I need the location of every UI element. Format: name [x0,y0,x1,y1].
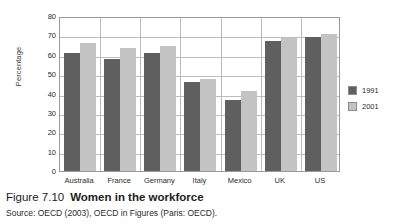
x-axis-tick-label: Mexico [228,176,252,185]
bars-layer [60,18,339,171]
bar [120,48,136,171]
x-axis-tick-labels: AustraliaFranceGermanyItalyMexicoUKUS [59,176,340,190]
legend-label: 2001 [362,103,379,111]
legend-swatch [348,102,357,111]
caption: Figure 7.10Women in the workforce [6,190,406,204]
bar [241,91,257,171]
y-axis-tick-label: 30 [48,110,56,118]
bar [160,46,176,171]
y-axis-tick-label: 20 [48,130,56,138]
bar [144,53,160,171]
y-axis-tick-labels: 01020304050607080 [36,17,56,172]
bar [225,100,241,171]
y-axis-title: Percentage [14,27,23,107]
y-axis-tick-label: 70 [48,33,56,41]
bar [305,37,321,171]
bar-group [100,18,140,171]
x-axis-tick-label: US [315,176,325,185]
y-axis-tick-label: 60 [48,52,56,60]
chart: Percentage 01020304050607080 AustraliaFr… [0,6,410,192]
bar-group [140,18,180,171]
legend-entry: 1991 [348,86,406,95]
y-axis-tick-label: 10 [48,149,56,157]
bar [321,34,337,171]
legend-entry: 2001 [348,102,406,111]
bar [184,82,200,171]
bar-group [180,18,220,171]
bar [265,41,281,171]
bar-group [261,18,301,171]
y-axis-tick-label: 50 [48,71,56,79]
x-axis-tick-label: UK [275,176,285,185]
caption-number: Figure 7.10 [6,191,64,203]
x-axis-tick-label: Italy [193,176,207,185]
y-axis-tick-label: 40 [48,91,56,99]
x-axis-tick-label: Australia [64,176,93,185]
legend-swatch [348,86,357,95]
bar [200,79,216,171]
bar [80,43,96,171]
bar-group [221,18,261,171]
x-axis-tick-label: Germany [144,176,175,185]
legend: 19912001 [348,86,406,118]
bar [64,53,80,171]
figure: Percentage 01020304050607080 AustraliaFr… [0,0,410,224]
bar-group [301,18,340,171]
x-axis-tick-label: France [108,176,131,185]
y-axis-tick-label: 80 [48,13,56,21]
y-axis-tick-label: 0 [52,168,56,176]
bar [104,59,120,171]
plot-area [59,17,340,172]
bar [281,38,297,171]
source-note: Source: OECD (2003), OECD in Figures (Pa… [6,208,217,218]
caption-title: Women in the workforce [70,191,203,203]
legend-label: 1991 [362,87,379,95]
bar-group [60,18,100,171]
